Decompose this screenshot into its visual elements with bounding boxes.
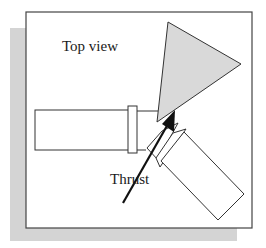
fixed-nozzle-collar	[128, 106, 137, 153]
diagram-canvas: Top view Thrust	[0, 0, 266, 248]
fixed-nozzle-body	[35, 110, 129, 150]
thrust-label: Thrust	[110, 171, 150, 187]
top-view-label: Top view	[62, 38, 118, 54]
